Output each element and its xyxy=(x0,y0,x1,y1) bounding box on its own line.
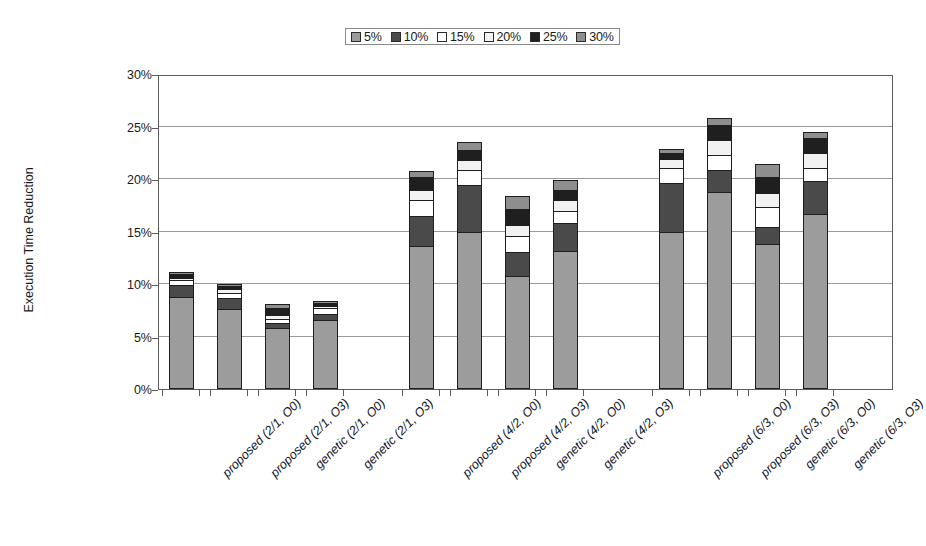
legend-item[interactable]: 20% xyxy=(484,31,521,43)
y-axis-title: Execution Time Reduction xyxy=(22,130,40,350)
bar-segment xyxy=(506,237,529,253)
bar-column[interactable] xyxy=(659,149,684,389)
bar-segment xyxy=(458,186,481,232)
bar-column[interactable] xyxy=(409,171,434,389)
bar-segment xyxy=(554,252,577,389)
legend-item[interactable]: 30% xyxy=(576,31,613,43)
bar-segment xyxy=(554,191,577,202)
x-axis-labels: proposed (2/1, O0)proposed (2/1, O3)gene… xyxy=(0,390,913,546)
bar-segment xyxy=(804,182,827,215)
y-tick-label: 20% xyxy=(98,174,152,186)
legend-label: 30% xyxy=(589,31,613,43)
bar-segment xyxy=(170,298,193,388)
bar-segment xyxy=(218,299,241,311)
legend-label: 25% xyxy=(543,31,567,43)
legend-swatch-icon xyxy=(437,32,447,42)
y-tick-label: 5% xyxy=(98,332,152,344)
y-tick-label: 25% xyxy=(98,122,152,134)
legend-label: 20% xyxy=(497,31,521,43)
bar-segment xyxy=(756,194,779,209)
chart-legend: 5%10%15%20%25%30% xyxy=(345,28,620,45)
legend-item[interactable]: 5% xyxy=(351,31,382,43)
bar-segment xyxy=(410,178,433,191)
bar-column[interactable] xyxy=(457,142,482,389)
legend-label: 10% xyxy=(404,31,428,43)
bar-column[interactable] xyxy=(803,132,828,389)
bar-segment xyxy=(804,215,827,388)
x-axis-label: proposed (2/1, O0) xyxy=(219,396,303,480)
legend-item[interactable]: 25% xyxy=(530,31,567,43)
plot-area xyxy=(158,75,893,390)
bar-segment xyxy=(554,181,577,190)
legend-swatch-icon xyxy=(391,32,401,42)
bar-segment xyxy=(458,151,481,162)
bar-segment xyxy=(660,169,683,185)
bar-segment xyxy=(506,277,529,388)
bar-segment xyxy=(506,253,529,277)
legend-swatch-icon xyxy=(530,32,540,42)
bar-segment xyxy=(554,201,577,212)
bar-segment xyxy=(660,160,683,168)
bar-segment xyxy=(458,161,481,170)
bar-column[interactable] xyxy=(553,180,578,389)
bar-segment xyxy=(410,201,433,217)
bar-segment xyxy=(708,193,731,388)
x-axis-label: proposed (4/2, O0) xyxy=(459,396,543,480)
bar-segment xyxy=(708,171,731,193)
gridline xyxy=(159,178,892,179)
bar-column[interactable] xyxy=(265,304,290,389)
bar-segment xyxy=(756,228,779,245)
bar-segment xyxy=(756,245,779,388)
bar-column[interactable] xyxy=(505,196,530,389)
bar-segment xyxy=(314,321,337,388)
bar-segment xyxy=(458,143,481,150)
bar-segment xyxy=(554,224,577,251)
gridline xyxy=(159,126,892,127)
bar-segment xyxy=(458,171,481,187)
bar-column[interactable] xyxy=(755,164,780,389)
bar-segment xyxy=(708,126,731,142)
bar-segment xyxy=(804,154,827,169)
bar-segment xyxy=(506,210,529,227)
legend-item[interactable]: 15% xyxy=(437,31,474,43)
bar-segment xyxy=(708,156,731,171)
bar-segment xyxy=(410,191,433,202)
bar-segment xyxy=(804,139,827,154)
y-axis-ticks: 0%5%10%15%20%25%30% xyxy=(94,75,152,390)
bar-column[interactable] xyxy=(217,284,242,389)
bar-segment xyxy=(554,212,577,225)
legend-swatch-icon xyxy=(351,32,361,42)
bar-segment xyxy=(660,233,683,388)
y-tick-label: 30% xyxy=(98,69,152,81)
legend-item[interactable]: 10% xyxy=(391,31,428,43)
bar-segment xyxy=(756,208,779,228)
bar-segment xyxy=(410,247,433,388)
y-tick-label: 15% xyxy=(98,227,152,239)
y-tick-label: 10% xyxy=(98,279,152,291)
bar-segment xyxy=(506,197,529,210)
legend-label: 15% xyxy=(450,31,474,43)
bar-segment xyxy=(458,233,481,388)
x-axis-label: proposed (6/3, O0) xyxy=(709,396,793,480)
bar-segment xyxy=(756,178,779,194)
bar-column[interactable] xyxy=(707,118,732,389)
bar-column[interactable] xyxy=(169,272,194,389)
bar-segment xyxy=(804,169,827,183)
legend-swatch-icon xyxy=(484,32,494,42)
bar-segment xyxy=(170,286,193,298)
bar-segment xyxy=(266,329,289,388)
legend-swatch-icon xyxy=(576,32,586,42)
bar-segment xyxy=(506,226,529,237)
bar-segment xyxy=(708,141,731,156)
bar-segment xyxy=(410,217,433,247)
bar-segment xyxy=(756,165,779,178)
bar-segment xyxy=(218,310,241,388)
legend-label: 5% xyxy=(364,31,382,43)
bar-segment xyxy=(660,184,683,232)
bar-column[interactable] xyxy=(313,301,338,389)
